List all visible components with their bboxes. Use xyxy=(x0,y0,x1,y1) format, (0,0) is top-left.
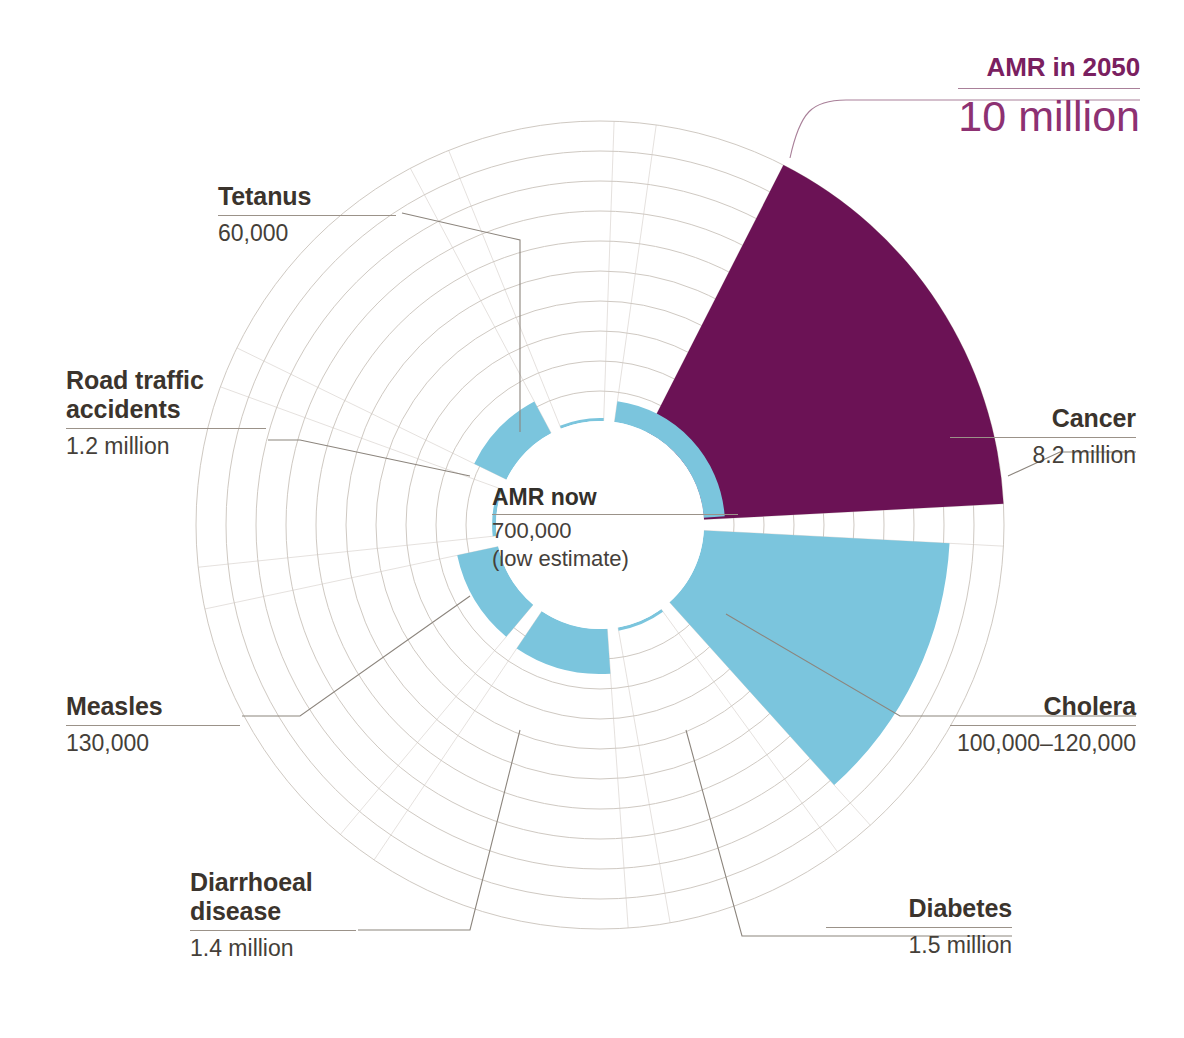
label-measles-rule xyxy=(66,725,240,726)
label-diabetes-value: 1.5 million xyxy=(826,931,1012,959)
label-road-traffic-accidents-value: 1.2 million xyxy=(66,432,268,460)
label-cholera: Cholera 100,000–120,000 xyxy=(950,692,1136,757)
label-diabetes: Diabetes 1.5 million xyxy=(826,894,1012,959)
gridline-spoke xyxy=(618,627,670,922)
label-cancer-rule xyxy=(950,437,1136,438)
callout-amr-2050-title: AMR in 2050 xyxy=(958,52,1140,82)
label-measles-title: Measles xyxy=(66,692,242,721)
label-diarrhoeal-disease-value: 1.4 million xyxy=(190,934,358,962)
gridline-spoke xyxy=(449,150,561,428)
label-measles: Measles 130,000 xyxy=(66,692,242,757)
label-diarrhoeal-disease: Diarrhoeal disease 1.4 million xyxy=(190,868,358,962)
center-label-title: AMR now xyxy=(492,484,732,511)
label-road-traffic-accidents-rule xyxy=(66,428,266,429)
label-diarrhoeal-disease-rule xyxy=(190,930,356,931)
leader-line-road-traffic-accidents xyxy=(268,440,470,476)
center-label-rule xyxy=(492,514,738,515)
gridline-spoke xyxy=(198,536,496,567)
gridline-spoke xyxy=(237,348,507,480)
label-road-traffic-accidents: Road traffic accidents 1.2 million xyxy=(66,366,268,460)
label-cholera-value: 100,000–120,000 xyxy=(950,729,1136,757)
label-cancer: Cancer 8.2 million xyxy=(950,404,1136,469)
label-diarrhoeal-disease-title: Diarrhoeal disease xyxy=(190,868,358,926)
label-diabetes-title: Diabetes xyxy=(826,894,1012,923)
label-cancer-title: Cancer xyxy=(950,404,1136,433)
label-cholera-title: Cholera xyxy=(950,692,1136,721)
label-tetanus-value: 60,000 xyxy=(218,219,398,247)
callout-amr-2050-value: 10 million xyxy=(958,91,1140,141)
label-tetanus-title: Tetanus xyxy=(218,182,398,211)
label-tetanus-rule xyxy=(218,215,396,216)
label-measles-value: 130,000 xyxy=(66,729,242,757)
label-cholera-rule xyxy=(950,725,1136,726)
callout-amr-2050: AMR in 2050 10 million xyxy=(958,52,1140,141)
infographic-canvas: AMR in 2050 10 million Tetanus 60,000 Ro… xyxy=(0,0,1184,1038)
label-road-traffic-accidents-title: Road traffic accidents xyxy=(66,366,268,424)
center-label: AMR now 700,000 (low estimate) xyxy=(492,484,732,573)
gridline-spoke xyxy=(614,125,656,422)
leader-line-diarrhoeal-disease xyxy=(358,730,520,930)
leader-line-measles xyxy=(242,596,470,716)
callout-amr-2050-rule xyxy=(958,88,1140,89)
label-diabetes-rule xyxy=(826,927,1012,928)
center-label-value: 700,000 xyxy=(492,517,732,545)
gridline-spoke xyxy=(340,605,533,835)
leader-line-tetanus xyxy=(402,213,520,432)
center-label-note: (low estimate) xyxy=(492,545,732,573)
label-cancer-value: 8.2 million xyxy=(950,441,1136,469)
gridline-spoke xyxy=(410,168,551,433)
label-tetanus: Tetanus 60,000 xyxy=(218,182,398,247)
